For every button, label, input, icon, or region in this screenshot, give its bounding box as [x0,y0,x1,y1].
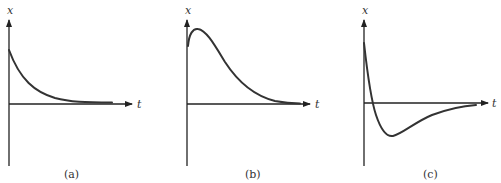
x-label-a: t [137,98,142,111]
x-label-c: t [492,97,497,110]
curve-a [9,50,112,103]
figure-canvas: x t (a) x t (b) x t (c) [0,0,501,183]
y-label-c: x [362,4,369,17]
caption-c: (c) [423,168,438,181]
curve-b [188,29,300,104]
panel-a: x t (a) [7,4,142,181]
y-label-b: x [185,4,192,17]
panel-c: x t (c) [362,4,497,181]
curve-c [364,43,476,136]
y-label-a: x [7,4,14,17]
x-label-b: t [315,98,320,111]
panel-b: x t (b) [185,4,320,181]
caption-a: (a) [64,168,79,181]
caption-b: (b) [245,168,261,181]
